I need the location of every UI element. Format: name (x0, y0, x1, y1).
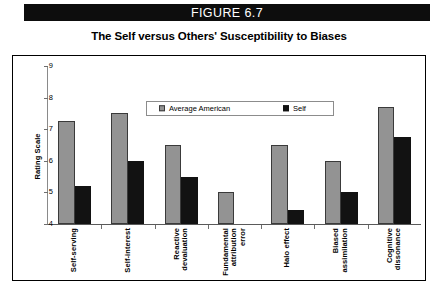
bar-self (181, 177, 198, 224)
legend-item-average-american: Average American (159, 105, 230, 113)
bar-group (218, 66, 251, 224)
bars-layer (48, 66, 421, 224)
legend-swatch-icon (283, 106, 289, 112)
bar-average-american (111, 113, 128, 224)
legend-swatch-icon (159, 106, 165, 112)
bar-average-american (378, 107, 395, 224)
category-label-line: Self-interest (124, 228, 133, 273)
figure-banner: FIGURE 6.7 (24, 4, 430, 21)
category-label-line: assimilation (341, 228, 350, 273)
bar-self (75, 186, 92, 224)
legend-label: Self (293, 105, 306, 113)
category-label-line: error (239, 228, 248, 246)
category-label-line: Halo effect (283, 228, 292, 267)
x-axis-line (47, 224, 421, 225)
bar-group (271, 66, 304, 224)
figure-container: FIGURE 6.7 The Self versus Others' Susce… (0, 0, 438, 286)
bar-average-american (218, 192, 235, 224)
chart-legend: Average American Self (146, 101, 334, 116)
category-label: Fundamentalattributionerror (208, 228, 261, 276)
category-label: Halo effect (261, 228, 314, 267)
category-label-line: dissonance (394, 228, 403, 270)
y-axis-tick-mark (44, 224, 48, 225)
bar-self (288, 210, 305, 224)
category-label: Cognitivedissonance (368, 228, 421, 270)
bar-self (341, 192, 358, 224)
bar-self (394, 137, 411, 224)
category-label: Self-interest (101, 228, 154, 273)
category-label: Self-serving (48, 228, 101, 272)
bar-group (378, 66, 411, 224)
category-label-line: Self-serving (70, 228, 79, 272)
x-axis-category-labels: Self-servingSelf-interestReactivedevalua… (12, 228, 426, 286)
bar-group (165, 66, 198, 224)
category-label: Biasedassimilation (314, 228, 367, 273)
bar-average-american (58, 121, 75, 224)
bar-group (325, 66, 358, 224)
category-label-line: devaluation (181, 228, 190, 271)
category-label: Reactivedevaluation (155, 228, 208, 271)
legend-label: Average American (169, 105, 230, 113)
bar-average-american (271, 145, 288, 224)
legend-item-self: Self (283, 105, 306, 113)
bar-group (58, 66, 91, 224)
bar-self (128, 161, 145, 224)
bar-average-american (165, 145, 182, 224)
figure-number-label: FIGURE 6.7 (24, 6, 430, 19)
bar-group (111, 66, 144, 224)
bar-average-american (325, 161, 342, 224)
chart-title: The Self versus Others' Susceptibility t… (0, 30, 438, 42)
